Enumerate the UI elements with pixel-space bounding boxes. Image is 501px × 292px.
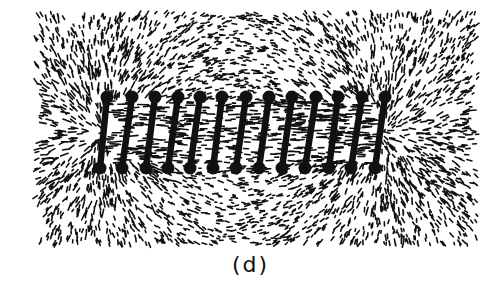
wire-cross-section xyxy=(162,162,175,175)
wire-cross-section xyxy=(207,162,220,175)
filing-marks xyxy=(33,10,479,247)
wire-cross-section xyxy=(140,162,153,175)
wire-cross-section xyxy=(194,91,207,104)
wire-cross-section xyxy=(276,162,289,175)
wire-cross-section xyxy=(149,91,162,104)
wire-cross-section xyxy=(253,162,266,175)
wire-cross-section xyxy=(172,91,185,104)
wire-cross-section xyxy=(184,162,197,175)
wire-cross-section xyxy=(356,91,369,104)
wire-cross-section xyxy=(263,91,276,104)
wire-cross-section xyxy=(323,162,336,175)
wire-cross-section xyxy=(310,91,323,104)
wire-cross-section xyxy=(379,91,392,104)
wire-cross-section xyxy=(369,162,382,175)
solenoid-iron-filings-figure xyxy=(0,0,501,292)
iron-filings-field xyxy=(33,10,479,247)
wire-cross-section xyxy=(216,91,229,104)
wire-cross-section xyxy=(230,162,243,175)
wire-cross-section xyxy=(345,162,358,175)
wire-cross-section xyxy=(332,91,345,104)
figure-caption: (d) xyxy=(0,252,501,277)
wire-cross-section xyxy=(126,91,139,104)
wire-cross-section xyxy=(286,91,299,104)
wire-cross-section xyxy=(101,91,114,104)
wire-cross-section xyxy=(116,162,129,175)
wire-cross-section xyxy=(299,162,312,175)
wire-cross-section xyxy=(240,91,253,104)
wire-cross-section xyxy=(94,162,107,175)
